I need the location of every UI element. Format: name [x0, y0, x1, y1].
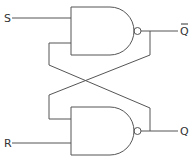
sr-latch-diagram: S R Q Q — [0, 0, 193, 157]
feedback-qbar-to-bottom — [49, 31, 150, 119]
top-nand-bubble — [134, 28, 141, 35]
q-label: Q — [180, 125, 189, 138]
s-label: S — [4, 12, 11, 25]
top-nand-gate — [71, 7, 134, 55]
q-bar-label: Q — [180, 25, 189, 38]
feedback-q-to-top — [49, 43, 150, 131]
r-label: R — [4, 137, 12, 150]
bottom-nand-bubble — [134, 128, 141, 135]
bottom-nand-gate — [71, 107, 134, 155]
